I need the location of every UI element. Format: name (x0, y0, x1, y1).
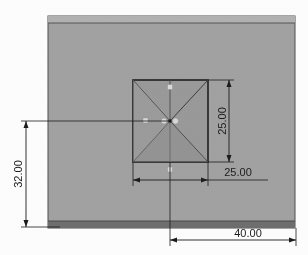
arrow-32-bottom (24, 220, 29, 227)
arrow-40-left (170, 238, 177, 243)
engineering-drawing: 25.00 25.00 32.00 (0, 0, 308, 255)
marker-center-right-icon (173, 118, 179, 124)
marker-mid-top-icon (168, 85, 173, 90)
dim-label-25-horizontal: 25.00 (224, 166, 252, 178)
base-plate-top-edge-band (48, 16, 295, 23)
dim-label-32-vertical: 32.00 (12, 160, 24, 188)
dim-label-25-vertical: 25.00 (216, 107, 228, 135)
marker-mid-left-icon (143, 118, 148, 123)
arrow-40-right (289, 238, 296, 243)
arrow-32-top (24, 121, 29, 128)
dim-label-40-horizontal: 40.00 (234, 227, 262, 239)
drawing-canvas: 25.00 25.00 32.00 (0, 0, 308, 255)
